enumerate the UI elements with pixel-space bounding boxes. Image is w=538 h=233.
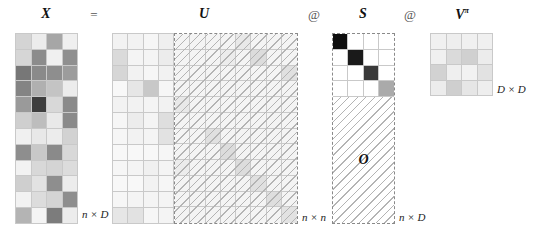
matrix-cell: [333, 50, 348, 66]
matrix-cell: [267, 113, 282, 129]
matrix-cell: [462, 65, 478, 81]
matrix-cell: [267, 160, 282, 176]
matrix-cell: [63, 161, 79, 177]
matrix-cell: [447, 81, 463, 97]
matrix-cell: [267, 129, 282, 145]
equals-sign: =: [90, 7, 97, 23]
matrix-cell: [159, 34, 174, 50]
matrix-cell: [144, 81, 159, 97]
matrix-cell: [282, 129, 297, 145]
matrix-cell: [32, 50, 48, 66]
matrix-cell: [128, 50, 143, 66]
matrix-cell: [379, 66, 394, 82]
matrix-cell: [221, 81, 236, 97]
matrix-cell: [47, 208, 63, 224]
matrix-cell: [431, 81, 447, 97]
matrix-cell: [159, 192, 174, 208]
matrix-cell: [206, 97, 221, 113]
matrix-cell: [221, 66, 236, 82]
matrix-cell: [113, 113, 128, 129]
matrix-x-grid: [15, 33, 78, 224]
matrix-cell: [47, 50, 63, 66]
matrix-cell: [175, 66, 190, 82]
matrix-cell: [190, 207, 205, 223]
matrix-cell: [348, 50, 363, 66]
matrix-cell: [47, 161, 63, 177]
matrix-cell: [190, 129, 205, 145]
matrix-cell: [128, 97, 143, 113]
matrix-s-frame: O: [332, 33, 395, 224]
matrix-cell: [32, 34, 48, 50]
matrix-cell: [47, 176, 63, 192]
matrix-cell: [47, 192, 63, 208]
matrix-cell: [236, 144, 251, 160]
matrix-cell: [221, 192, 236, 208]
matrix-cell: [206, 144, 221, 160]
matrix-cell: [47, 34, 63, 50]
matrix-cell: [63, 66, 79, 82]
matrix-cell: [16, 192, 32, 208]
matrix-cell: [128, 145, 143, 161]
matrix-cell: [251, 207, 266, 223]
matrix-cell: [16, 208, 32, 224]
matrix-cell: [206, 113, 221, 129]
matrix-cell: [462, 34, 478, 50]
matrix-cell: [206, 176, 221, 192]
matrix-cell: [175, 34, 190, 50]
matrix-cell: [206, 50, 221, 66]
matrix-cell: [113, 34, 128, 50]
matrix-cell: [206, 66, 221, 82]
matrix-cell: [221, 129, 236, 145]
matrix-cell: [175, 144, 190, 160]
matrix-cell: [63, 34, 79, 50]
matrix-cell: [113, 66, 128, 82]
matrix-cell: [206, 160, 221, 176]
matrix-cell: [221, 34, 236, 50]
matrix-v-title: Vπ: [455, 6, 469, 23]
matrix-cell: [159, 97, 174, 113]
matrix-cell: [251, 66, 266, 82]
matrix-cell: [478, 50, 494, 66]
matrix-cell: [447, 65, 463, 81]
matrix-cell: [175, 81, 190, 97]
matrix-cell: [348, 66, 363, 82]
matrix-cell: [431, 34, 447, 50]
matrix-cell: [16, 113, 32, 129]
matrix-cell: [236, 81, 251, 97]
matrix-cell: [206, 129, 221, 145]
matrix-cell: [236, 192, 251, 208]
matrix-cell: [113, 208, 128, 224]
matrix-cell: [282, 81, 297, 97]
matrix-cell: [190, 176, 205, 192]
matrix-cell: [63, 97, 79, 113]
matrix-cell: [478, 34, 494, 50]
matrix-cell: [282, 176, 297, 192]
matrix-cell: [221, 144, 236, 160]
matrix-cell: [190, 144, 205, 160]
matrix-cell: [144, 208, 159, 224]
matrix-cell: [63, 208, 79, 224]
matrix-cell: [379, 81, 394, 97]
matrix-s-dimension: n × D: [399, 211, 425, 223]
matrix-cell: [128, 192, 143, 208]
matrix-cell: [447, 34, 463, 50]
matrix-cell: [267, 97, 282, 113]
matrix-cell: [128, 81, 143, 97]
matrix-cell: [282, 66, 297, 82]
matrix-cell: [333, 66, 348, 82]
matrix-cell: [267, 66, 282, 82]
matrix-x-dimension: n × D: [82, 208, 108, 220]
matrix-cell: [175, 176, 190, 192]
matrix-cell: [206, 192, 221, 208]
matrix-cell: [175, 192, 190, 208]
matrix-cell: [16, 97, 32, 113]
matrix-cell: [63, 129, 79, 145]
matrix-cell: [282, 50, 297, 66]
matrix-cell: [159, 161, 174, 177]
matrix-cell: [206, 81, 221, 97]
matrix-cell: [113, 161, 128, 177]
matrix-cell: [159, 176, 174, 192]
matrix-cell: [267, 144, 282, 160]
matrix-cell: [144, 34, 159, 50]
matrix-cell: [190, 113, 205, 129]
